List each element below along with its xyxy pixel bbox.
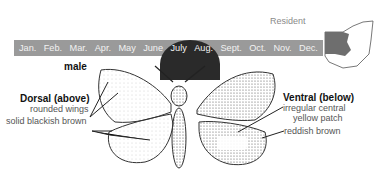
sex-label: male — [64, 61, 87, 72]
ventral-heading: Ventral (below) — [283, 92, 354, 103]
dorsal-rounded-wings: rounded wings — [30, 104, 89, 114]
ventral-patch-line1: irregular central — [283, 103, 346, 113]
dorsal-heading: Dorsal (above) — [20, 93, 89, 104]
ventral-patch-line2: yellow patch — [293, 113, 343, 123]
dorsal-color: solid blackish brown — [6, 116, 87, 126]
leader-lines — [0, 0, 388, 176]
ventral-color: reddish brown — [284, 126, 341, 136]
